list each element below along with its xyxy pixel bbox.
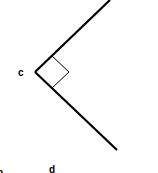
lower-ray <box>35 72 117 150</box>
bottom-label: d <box>49 164 55 173</box>
partial-label: b <box>0 167 3 173</box>
right-angle-diagram: c d b <box>0 0 158 173</box>
vertex-label: c <box>18 67 24 78</box>
upper-ray <box>35 0 110 72</box>
right-angle-marker <box>52 56 69 88</box>
